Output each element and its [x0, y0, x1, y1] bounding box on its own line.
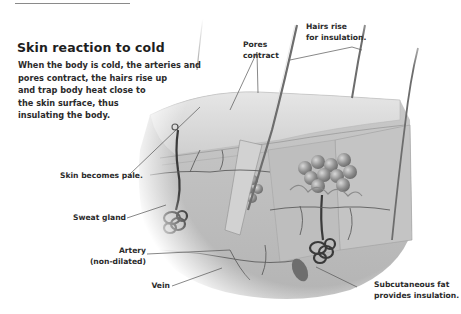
label-subcutaneous-fat: Subcutaneous fat provides insulation. — [374, 280, 459, 301]
label-skin-pale: Skin becomes pale. — [60, 171, 128, 182]
label-sweat-gland: Sweat gland — [60, 213, 126, 224]
label-pores-contract: Pores contract — [243, 40, 279, 61]
label-hairs-rise: Hairs rise for insulation. — [306, 22, 366, 43]
label-artery: Artery (non-dilated) — [80, 246, 146, 267]
skin-cold-diagram: Skin reaction to cold When the body is c… — [0, 0, 461, 314]
label-vein: Vein — [130, 281, 170, 292]
diagram-title: Skin reaction to cold — [17, 40, 165, 55]
description-text: When the body is cold, the arteries and … — [18, 59, 188, 122]
